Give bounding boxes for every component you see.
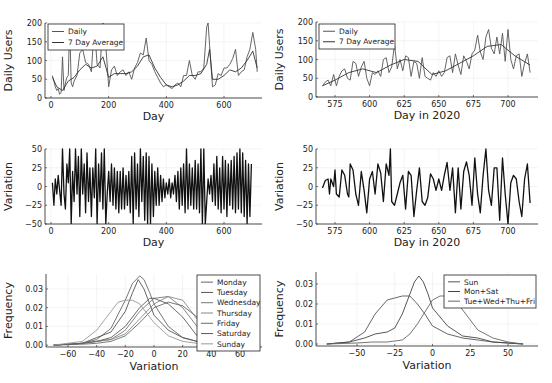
legend-entry: Saturday: [217, 329, 251, 338]
x-tick-label: 200: [101, 227, 116, 236]
x-axis-label: Variation: [403, 359, 452, 372]
y-tick-label: 0.01: [25, 322, 43, 331]
y-tick-label: 50: [32, 145, 42, 154]
x-tick-label: 0: [48, 101, 53, 110]
x-axis-label: Day: [143, 236, 165, 249]
y-axis-label: Variation: [2, 162, 15, 211]
y-tick-label: −50: [25, 220, 42, 229]
series-line-variation: [52, 149, 251, 224]
y-tick-label: 50: [303, 145, 313, 154]
x-axis-label: Variation: [130, 360, 179, 373]
x-tick-label: 0: [48, 227, 53, 236]
x-tick-label: 575: [327, 227, 342, 236]
y-tick-label: 200: [27, 19, 42, 28]
x-tick-label: 600: [216, 227, 231, 236]
y-tick-label: 0.00: [25, 341, 43, 350]
x-tick-label: 0: [151, 350, 156, 359]
legend: Daily7 Day Average: [48, 24, 124, 50]
series-group: [52, 149, 251, 224]
x-tick-label: 675: [466, 100, 481, 109]
y-tick-label: 0.02: [25, 304, 43, 313]
x-tick-label: 600: [216, 101, 231, 110]
y-tick-label: 100: [27, 57, 42, 66]
x-tick-label: 400: [159, 101, 174, 110]
chart-panel-weekday_density: −60−40−2002040600.000.010.020.03Variatio…: [2, 274, 262, 373]
y-tick-label: 25: [303, 164, 313, 173]
y-axis-label: Daily Users: [273, 28, 286, 90]
chart-panel-grouped_density: −50−25025500.000.010.020.03VariationFreq…: [273, 272, 538, 372]
x-axis-label: Day in 2020: [394, 109, 461, 122]
chart-panel-variation_all: 0200400600−50−2502550DayVariation: [2, 145, 262, 249]
x-tick-label: 675: [466, 227, 481, 236]
y-tick-label: 50: [32, 75, 42, 84]
y-tick-label: 0.03: [25, 285, 43, 294]
x-tick-label: 25: [465, 349, 475, 358]
y-axis-label: Daily Users: [2, 29, 15, 91]
y-tick-label: 100: [298, 56, 313, 65]
x-tick-label: 650: [431, 100, 446, 109]
x-axis-label: Day in 2020: [394, 236, 461, 249]
y-tick-label: 50: [303, 74, 313, 83]
y-tick-label: 150: [298, 37, 313, 46]
figure: 0200400600050100150200DayDaily UsersDail…: [0, 0, 552, 383]
x-tick-label: −20: [117, 350, 134, 359]
x-axis-label: Day: [143, 110, 165, 123]
x-tick-label: 700: [500, 100, 515, 109]
legend-entry: Daily: [68, 27, 88, 36]
x-tick-label: 650: [431, 227, 446, 236]
legend-entry: Thursday: [216, 309, 252, 318]
x-tick-label: −25: [386, 349, 403, 358]
x-tick-label: 625: [397, 100, 412, 109]
y-tick-label: 0.02: [295, 300, 313, 309]
chart-panel-variation_2020: 575600625650675700−50−2502550Day in 2020…: [273, 145, 538, 249]
x-tick-label: 625: [397, 227, 412, 236]
y-tick-label: 0: [37, 183, 42, 192]
x-tick-label: 700: [500, 227, 515, 236]
y-tick-label: −25: [25, 201, 42, 210]
y-axis-label: Frequency: [273, 280, 286, 337]
x-tick-label: 20: [178, 350, 188, 359]
y-tick-label: −50: [296, 220, 313, 229]
y-tick-label: 25: [32, 164, 42, 173]
legend-entry: Mon+Sat: [464, 287, 498, 296]
legend-entry: Wednesday: [217, 298, 261, 307]
legend-entry: Friday: [217, 319, 240, 328]
x-tick-label: 50: [503, 349, 513, 358]
y-tick-label: 0: [308, 93, 313, 102]
y-tick-label: 150: [27, 38, 42, 47]
y-tick-label: 0.03: [295, 280, 313, 289]
x-tick-label: 200: [101, 101, 116, 110]
chart-panel-daily_users_all: 0200400600050100150200DayDaily UsersDail…: [2, 19, 262, 123]
legend-entry: Daily: [339, 27, 359, 36]
y-axis-label: Frequency: [2, 282, 15, 339]
y-tick-label: 0: [37, 94, 42, 103]
legend-entry: Sun: [464, 278, 479, 287]
x-tick-label: 400: [159, 227, 174, 236]
y-tick-label: 0.00: [295, 340, 313, 349]
x-tick-label: 0: [430, 349, 435, 358]
x-tick-label: 575: [327, 100, 342, 109]
y-tick-label: −25: [296, 201, 313, 210]
series-line-7-day-average: [52, 49, 257, 90]
legend-entry: 7 Day Average: [68, 38, 124, 47]
legend-entry: Monday: [217, 278, 247, 287]
legend-entry: Tue+Wed+Thu+Fri: [463, 297, 535, 306]
y-axis-label: Variation: [273, 162, 286, 211]
legend: SunMon+SatTue+Wed+Thu+Fri: [444, 275, 536, 308]
legend: Daily7 Day Average: [319, 24, 395, 49]
y-tick-label: 0.01: [295, 320, 313, 329]
x-tick-label: 600: [362, 227, 377, 236]
legend-entry: 7 Day Average: [339, 37, 395, 46]
x-tick-label: −50: [349, 349, 366, 358]
chart-panel-daily_users_2020: 575600625650675700050100150200Day in 202…: [273, 18, 538, 122]
legend-entry: Sunday: [217, 340, 246, 349]
x-tick-label: 600: [362, 100, 377, 109]
legend: MondayTuesdayWednesdayThursdayFridaySatu…: [197, 275, 261, 351]
y-tick-label: 0: [308, 183, 313, 192]
x-tick-label: −60: [60, 350, 77, 359]
x-tick-label: −40: [88, 350, 105, 359]
y-tick-label: 200: [298, 18, 313, 27]
legend-entry: Tuesday: [216, 288, 248, 297]
